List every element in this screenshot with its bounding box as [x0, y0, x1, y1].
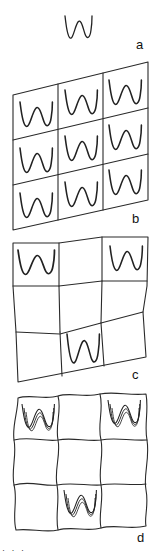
grid-d — [13, 393, 148, 531]
double-well-curve — [65, 16, 92, 38]
panel-c — [13, 237, 148, 382]
panel-label-c: c — [132, 368, 139, 381]
curves-c — [18, 246, 142, 363]
panel-a — [65, 16, 92, 38]
panel-b — [13, 62, 148, 230]
cropped-caption-fragment: · · · — [2, 545, 26, 551]
panel-d — [13, 393, 148, 531]
curves-d — [22, 400, 140, 517]
figure-canvas — [0, 0, 157, 551]
panel-label-d: d — [137, 531, 144, 544]
panel-label-b: b — [132, 212, 139, 225]
panel-label-a: a — [136, 38, 143, 51]
curves-b — [20, 80, 141, 217]
